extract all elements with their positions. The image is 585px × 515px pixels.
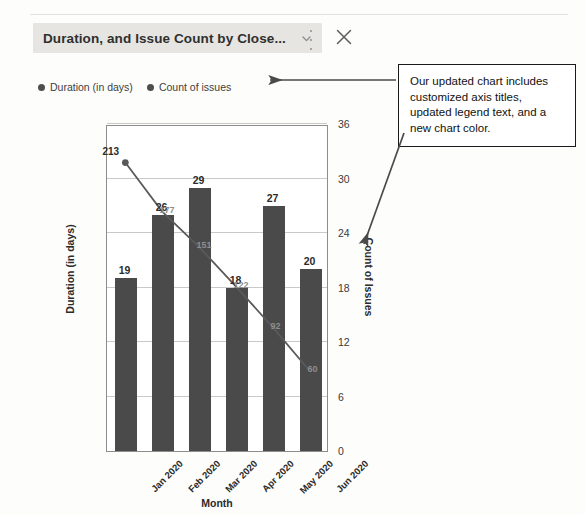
x-axis-tick-label: Feb 2020 [185, 458, 222, 495]
annotation-callout: Our updated chart includes customized ax… [398, 64, 576, 147]
chart-canvas: 192629182720 2131771511229260 0612182430… [52, 113, 362, 463]
line-value-label: 177 [160, 205, 175, 215]
x-axis-tick-label: Jun 2020 [333, 458, 370, 495]
legend-label-duration: Duration (in days) [50, 81, 133, 93]
legend-item-duration[interactable]: Duration (in days) [38, 81, 133, 93]
line-value-label: 151 [197, 240, 212, 250]
bar-value-label: 29 [179, 174, 219, 186]
line-value-label: 122 [234, 280, 249, 290]
legend-swatch-duration [38, 84, 45, 91]
legend-item-count[interactable]: Count of issues [147, 81, 231, 93]
y-axis-right-tick-label: 36 [338, 118, 364, 130]
page-title: Duration, and Issue Count by Close... [43, 31, 286, 46]
chart-title-bar[interactable]: Duration, and Issue Count by Close... [33, 23, 322, 53]
y-axis-right-tick-label: 6 [338, 391, 364, 403]
x-axis-tick-label: Mar 2020 [222, 458, 259, 495]
x-axis-tick-label: Jan 2020 [148, 458, 184, 494]
chart-legend: Duration (in days) Count of issues [38, 81, 231, 93]
bar-value-label: 20 [290, 255, 330, 267]
more-vertical-icon[interactable] [304, 28, 318, 52]
bar-value-label: 27 [253, 192, 293, 204]
annotation-text: Our updated chart includes customized ax… [410, 74, 565, 136]
y-axis-right-title: Count of Issues [363, 238, 375, 317]
bar-value-label: 19 [105, 264, 145, 276]
legend-label-count: Count of issues [159, 81, 231, 93]
y-axis-right-tick-label: 18 [338, 282, 364, 294]
legend-swatch-count [147, 84, 154, 91]
y-axis-left-title: Duration (in days) [64, 224, 76, 313]
line-value-label: 213 [103, 146, 120, 157]
x-axis-tick-label: May 2020 [297, 458, 335, 496]
line-value-label: 92 [271, 321, 281, 331]
y-axis-right-tick-label: 12 [338, 336, 364, 348]
line-marker[interactable] [122, 159, 129, 166]
x-axis-tick-label: Apr 2020 [259, 458, 295, 494]
x-axis-title: Month [106, 497, 328, 509]
y-axis-right-tick-label: 24 [338, 227, 364, 239]
close-icon[interactable] [333, 26, 355, 48]
gridline [107, 123, 327, 124]
y-axis-right-tick-label: 30 [338, 173, 364, 185]
line-value-label: 60 [308, 364, 318, 374]
screenshot-root: Duration, and Issue Count by Close... Du… [0, 0, 585, 515]
y-axis-right-tick-label: 0 [338, 445, 364, 457]
